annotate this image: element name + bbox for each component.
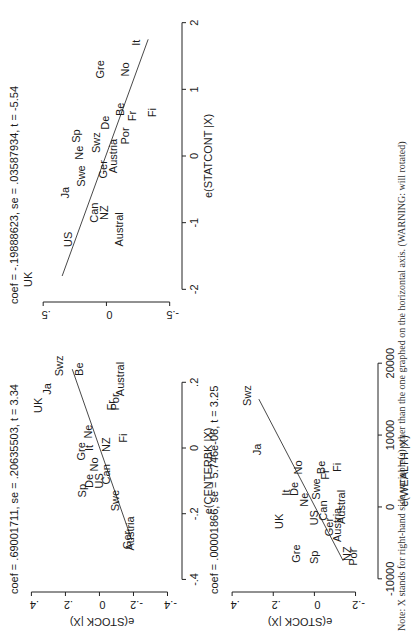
data-point-label: Austria: [107, 138, 119, 173]
data-point-label: Ja: [41, 382, 53, 395]
chart-panel-top-left: coef = .69001711, se = .20635503, t = 3.…: [8, 355, 214, 628]
data-point-label: Austral: [114, 362, 126, 396]
x-tick-label: 1: [188, 86, 200, 92]
data-point-label: Ne: [298, 493, 310, 507]
data-point-label: Swz: [90, 132, 102, 153]
data-point-label: No: [292, 460, 304, 474]
x-tick-label: .2: [188, 378, 200, 387]
y-tick-label: -.5: [166, 309, 179, 321]
data-point-label: De: [99, 116, 111, 130]
y-tick-label: .2: [272, 599, 281, 611]
data-point-label: NZ: [98, 205, 110, 220]
figure-note: Note: X stands for right-hand side varia…: [396, 141, 408, 631]
x-tick-label: 0: [384, 504, 396, 510]
data-point-label: Gre: [290, 544, 302, 562]
x-tick-label: -2: [188, 284, 200, 294]
data-point-label: US: [62, 232, 74, 247]
data-point-label: UK: [273, 513, 285, 529]
data-point-label: Austral: [113, 212, 125, 246]
data-point-label: Sp: [70, 129, 82, 142]
y-tick-label: -.4: [164, 599, 177, 611]
chart-panel-bottom-left: coef = .00001866, se = 5.746e-06, t = 3.…: [208, 348, 410, 628]
x-tick-label: 0: [188, 153, 200, 159]
data-point-label: Be: [114, 103, 126, 116]
data-point-label: Be: [73, 362, 85, 375]
rotated-figure-page: coef = .69001711, se = .20635503, t = 3.…: [0, 0, 413, 641]
y-tick-label: -.2: [130, 599, 143, 611]
y-tick-label: -.2: [352, 599, 365, 611]
data-point-label: It: [83, 445, 95, 451]
y-tick-label: 0: [314, 599, 320, 611]
data-point-label: Swe: [109, 490, 121, 511]
y-tick-label: 0: [99, 599, 105, 611]
y-tick-label: .2: [64, 599, 73, 611]
chart-title: coef = .00001866, se = 5.746e-06, t = 3.…: [208, 386, 220, 594]
data-point-label: UK: [32, 397, 44, 413]
y-tick-label: 0: [106, 309, 112, 321]
data-point-label: Swz: [53, 355, 65, 376]
x-tick-label: -.2: [188, 507, 200, 520]
data-point-label: Swe: [310, 478, 322, 499]
data-point-label: Por: [119, 127, 131, 144]
y-tick-label: .4: [30, 599, 39, 611]
data-point-label: Fi: [146, 108, 158, 117]
data-point-label: Fi: [117, 434, 129, 443]
data-point-label: It: [130, 40, 142, 46]
data-point-label: Ne: [82, 425, 94, 439]
data-point-label: Austria: [124, 515, 136, 550]
data-point-label: Swe: [75, 165, 87, 186]
chart-title: coef = -.19888623, se = .03587934, t = -…: [8, 86, 20, 304]
x-tick-label: -1: [188, 218, 200, 228]
data-point-label: NZ: [100, 437, 112, 452]
data-point-label: Swz: [241, 385, 253, 406]
data-point-label: No: [119, 62, 131, 76]
x-tick-label: 10000: [384, 420, 396, 451]
data-point-label: UK: [22, 271, 34, 287]
data-point-label: Por: [347, 548, 359, 565]
data-point-label: Ja: [251, 443, 263, 456]
data-point-label: Fi: [331, 463, 343, 472]
data-point-label: Can: [100, 464, 112, 484]
x-tick-label: 2: [188, 20, 200, 26]
data-point-label: Ja: [59, 186, 71, 199]
y-tick-label: .4: [231, 599, 240, 611]
data-point-label: Fr: [126, 110, 138, 121]
chart-panel-top-right: coef = -.19888623, se = .03587934, t = -…: [8, 20, 214, 321]
x-tick-label: 20000: [384, 348, 396, 379]
x-tick-label: -10000: [384, 562, 396, 596]
data-point-label: Sp: [308, 551, 320, 564]
data-point-label: Austria: [331, 507, 343, 542]
data-point-label: Gre: [94, 60, 106, 78]
x-axis-label: e(STATCONT |X): [202, 114, 214, 198]
y-axis-label: e(STOCK |X): [268, 616, 332, 628]
figure: coef = .69001711, se = .20635503, t = 3.…: [0, 0, 413, 641]
y-tick-label: .5: [42, 309, 51, 321]
x-tick-label: -.4: [188, 573, 200, 586]
data-point-label: No: [88, 457, 100, 471]
chart-title: coef = .69001711, se = .20635503, t = 3.…: [8, 384, 20, 594]
data-point-label: Ne: [73, 146, 85, 160]
x-tick-label: 0: [188, 445, 200, 451]
data-point-label: Fr: [319, 469, 331, 480]
y-axis-label: e(STOCK |X): [70, 616, 134, 628]
